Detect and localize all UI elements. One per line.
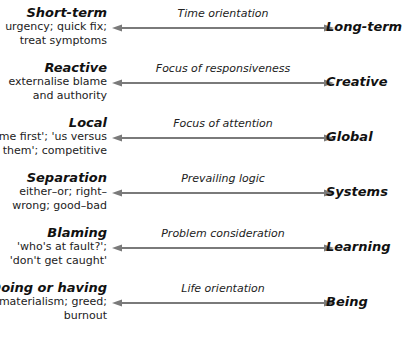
- right-pole-title: Long-term: [326, 19, 402, 34]
- left-pole: Local 'me first'; 'us versus them'; comp…: [0, 115, 107, 158]
- left-pole-title: Reactive: [0, 60, 107, 75]
- right-pole-title: Global: [326, 129, 373, 144]
- left-pole-description: either–or; right–wrong; good–bad: [0, 185, 107, 213]
- continuum-row-prevailing-logic: Separation either–or; right–wrong; good–…: [0, 170, 391, 224]
- axis-label: Life orientation: [113, 282, 333, 295]
- left-pole-description: materialism; greed; burnout: [0, 295, 107, 323]
- axis-label: Focus of responsiveness: [113, 62, 333, 75]
- left-pole: Reactive externalise blame and authority: [0, 60, 107, 103]
- left-pole: Blaming 'who's at fault?'; 'don't get ca…: [0, 225, 107, 268]
- right-pole-title: Learning: [326, 239, 391, 254]
- left-pole: Doing or having materialism; greed; burn…: [0, 280, 107, 323]
- left-pole: Short-term urgency; quick fix; treat sym…: [0, 5, 107, 48]
- left-pole-description: urgency; quick fix; treat symptoms: [0, 20, 107, 48]
- double-arrow-icon: [112, 134, 334, 142]
- left-pole: Separation either–or; right–wrong; good–…: [0, 170, 107, 213]
- axis-label: Time orientation: [113, 7, 333, 20]
- left-pole-title: Doing or having: [0, 280, 107, 295]
- continuum-row-life-orientation: Doing or having materialism; greed; burn…: [0, 280, 391, 334]
- left-pole-description: 'me first'; 'us versus them'; competitiv…: [0, 130, 107, 158]
- axis-label: Prevailing logic: [113, 172, 333, 185]
- double-arrow-icon: [112, 24, 334, 32]
- double-arrow-icon: [112, 79, 334, 87]
- left-pole-description: externalise blame and authority: [0, 75, 107, 103]
- left-pole-title: Local: [0, 115, 107, 130]
- axis-label: Problem consideration: [113, 227, 333, 240]
- right-pole-title: Creative: [326, 74, 388, 89]
- continuum-row-focus-of-attention: Local 'me first'; 'us versus them'; comp…: [0, 115, 391, 169]
- left-pole-title: Separation: [0, 170, 107, 185]
- left-pole-description: 'who's at fault?'; 'don't get caught': [0, 240, 107, 268]
- right-pole-title: Systems: [326, 184, 388, 199]
- left-pole-title: Blaming: [0, 225, 107, 240]
- continuum-row-problem-consideration: Blaming 'who's at fault?'; 'don't get ca…: [0, 225, 391, 279]
- continuum-row-focus-of-responsiveness: Reactive externalise blame and authority…: [0, 60, 391, 114]
- axis-label: Focus of attention: [113, 117, 333, 130]
- right-pole-title: Being: [326, 294, 368, 309]
- continuum-row-time-orientation: Short-term urgency; quick fix; treat sym…: [0, 5, 391, 59]
- double-arrow-icon: [112, 299, 334, 307]
- left-pole-title: Short-term: [0, 5, 107, 20]
- double-arrow-icon: [112, 244, 334, 252]
- double-arrow-icon: [112, 189, 334, 197]
